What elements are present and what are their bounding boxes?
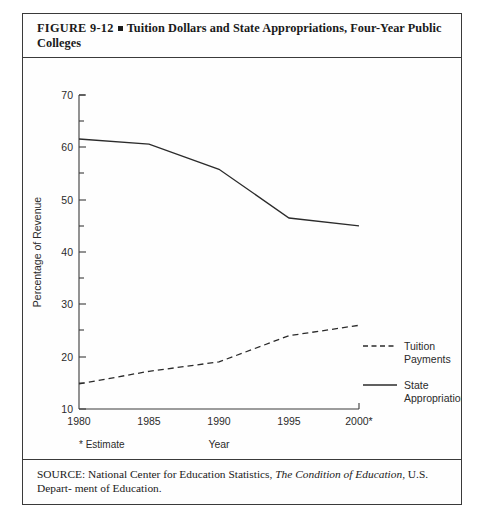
estimate-footnote: * Estimate bbox=[79, 439, 125, 450]
chart-legend: Tuition Payments State Appropriations bbox=[363, 340, 461, 404]
figure-container: FIGURE 9-12Tuition Dollars and State App… bbox=[22, 13, 462, 505]
figure-title-line2: Colleges bbox=[37, 36, 447, 51]
source-prefix: SOURCE: bbox=[37, 468, 85, 480]
figure-source-note: SOURCE: National Center for Education St… bbox=[23, 459, 461, 504]
legend-label-tuition-line1: Tuition bbox=[404, 340, 435, 352]
line-chart-svg: 70 60 50 40 30 20 10 Percentage of Reven… bbox=[23, 60, 461, 460]
x-tick-label-1980: 1980 bbox=[67, 415, 91, 427]
source-publication-title: The Condition of Education bbox=[275, 468, 402, 480]
bullet-square-icon bbox=[118, 26, 123, 31]
legend-label-state-line2: Appropriations bbox=[404, 392, 461, 404]
figure-title-line1: Tuition Dollars and State Appropriations… bbox=[127, 21, 442, 35]
x-tick-label-1985: 1985 bbox=[137, 415, 161, 427]
series-line-tuition-payments bbox=[79, 325, 359, 384]
x-tick-label-1995: 1995 bbox=[277, 415, 301, 427]
x-tick-label-1990: 1990 bbox=[207, 415, 231, 427]
source-text-part1: National Center for Education Statistics… bbox=[85, 468, 275, 480]
x-axis-title: Year bbox=[208, 438, 230, 450]
y-tick-label-30: 30 bbox=[61, 298, 73, 310]
y-axis-title: Percentage of Revenue bbox=[31, 197, 43, 307]
series-line-state-appropriations bbox=[79, 139, 359, 226]
source-line2: ment of Education. bbox=[75, 482, 162, 494]
y-tick-label-60: 60 bbox=[61, 141, 73, 153]
legend-label-tuition-line2: Payments bbox=[404, 353, 451, 365]
y-axis-major-ticks bbox=[79, 95, 86, 409]
figure-number: FIGURE 9-12 bbox=[37, 21, 114, 35]
legend-label-state-line1: State bbox=[404, 379, 429, 391]
y-tick-label-40: 40 bbox=[61, 246, 73, 258]
y-tick-label-70: 70 bbox=[61, 89, 73, 101]
y-tick-label-10: 10 bbox=[61, 403, 73, 415]
chart-plot-region: 70 60 50 40 30 20 10 Percentage of Reven… bbox=[23, 60, 461, 460]
y-tick-label-50: 50 bbox=[61, 194, 73, 206]
y-tick-label-20: 20 bbox=[61, 351, 73, 363]
x-tick-label-2000: 2000* bbox=[345, 415, 372, 427]
figure-caption: FIGURE 9-12Tuition Dollars and State App… bbox=[23, 14, 461, 58]
